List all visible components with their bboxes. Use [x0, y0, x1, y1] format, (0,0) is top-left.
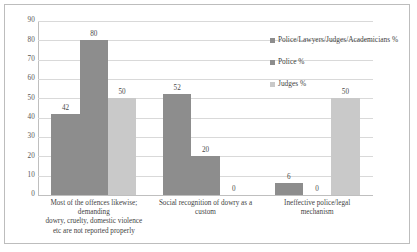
legend-label: Police %: [278, 58, 304, 66]
y-axis-tick-label: 60: [9, 75, 35, 82]
x-axis-category-label: Most of the offences likewise;demandingd…: [38, 199, 150, 236]
bar[interactable]: [275, 183, 303, 195]
bar[interactable]: [331, 98, 359, 195]
y-axis-tick-label: 30: [9, 133, 35, 140]
bar-value-label: 50: [108, 89, 136, 96]
legend-item[interactable]: Judges %: [270, 73, 415, 95]
y-axis-tick-label: 70: [9, 56, 35, 63]
x-axis-category-label: Social recognition of dowry as acustom: [150, 199, 262, 217]
legend-swatch-icon: [270, 82, 275, 87]
chart-legend: Police/Lawyers/Judges/Academicians %Poli…: [270, 29, 415, 95]
legend-swatch-icon: [270, 60, 275, 65]
bar-group: 52200: [163, 21, 248, 195]
chart-frame: 9080706050403020100 428050522006050 Poli…: [4, 4, 410, 244]
y-axis-tick-label: 40: [9, 114, 35, 121]
y-axis-tick-label: 50: [9, 95, 35, 102]
bar-value-label: 42: [51, 105, 79, 112]
y-axis-tick-label: 90: [9, 17, 35, 24]
legend-item[interactable]: Police/Lawyers/Judges/Academicians %: [270, 29, 415, 51]
bar[interactable]: [191, 156, 219, 195]
legend-swatch-icon: [270, 38, 275, 43]
y-axis-tick-label: 0: [9, 191, 35, 198]
gridline: [38, 195, 373, 196]
bar-group: 428050: [51, 21, 136, 195]
y-axis-tick-label: 10: [9, 172, 35, 179]
legend-item[interactable]: Police %: [270, 51, 415, 73]
bar-value-label: 0: [303, 186, 331, 193]
bar[interactable]: [80, 40, 108, 195]
legend-label: Police/Lawyers/Judges/Academicians %: [278, 36, 398, 44]
bar-value-label: 80: [80, 31, 108, 38]
bar-value-label: 6: [275, 174, 303, 181]
bar[interactable]: [163, 94, 191, 195]
legend-label: Judges %: [278, 80, 306, 88]
y-axis-tick-labels: 9080706050403020100: [5, 5, 35, 252]
x-axis-category-label: Ineffective police/legalmechanism: [261, 199, 373, 217]
bar-value-label: 20: [191, 147, 219, 154]
bar[interactable]: [108, 98, 136, 195]
x-axis-category-labels: Most of the offences likewise;demandingd…: [38, 199, 373, 245]
bar-value-label: 0: [220, 186, 248, 193]
bar[interactable]: [51, 114, 79, 195]
y-axis-tick-label: 80: [9, 37, 35, 44]
y-axis-tick-label: 20: [9, 153, 35, 160]
bar-value-label: 52: [163, 85, 191, 92]
